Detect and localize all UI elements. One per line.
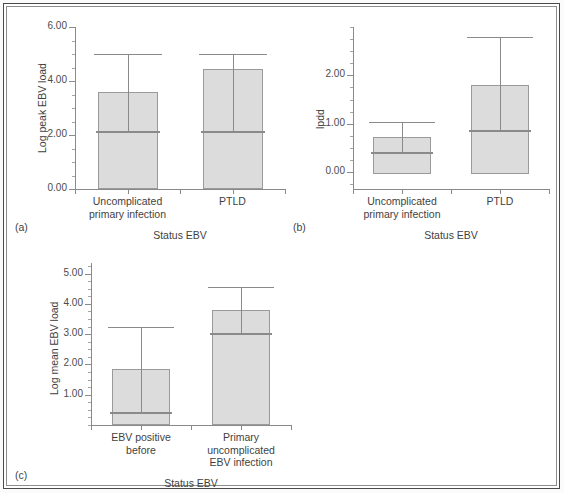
y-tick-major (85, 364, 91, 365)
x-tick-end (549, 189, 550, 194)
category-label-line: PTLD (438, 195, 562, 208)
y-tick-major (69, 81, 75, 82)
error-bar-cap-upper (369, 122, 435, 123)
x-tick-start (75, 189, 76, 194)
category-label-line: EBV infection (179, 456, 303, 469)
y-tick-minor (350, 160, 353, 161)
y-tick-minor (88, 281, 91, 282)
figure-root: 0.002.004.006.00Log peak EBV loadUncompl… (0, 0, 564, 493)
y-tick-minor (72, 149, 75, 150)
x-tick-divider (451, 189, 452, 194)
error-bar-cap-lower (201, 131, 265, 133)
error-bar-cap-lower (210, 333, 272, 335)
y-tick-label: 0.00 (307, 166, 345, 176)
category-label-line: primary infection (340, 208, 464, 221)
x-tick-start (91, 425, 92, 430)
error-bar-line (402, 122, 403, 152)
panel-tag: (c) (15, 469, 27, 481)
x-axis-label: Status EBV (75, 229, 285, 241)
x-tick-start (353, 189, 354, 194)
error-bar-cap-upper (94, 54, 162, 55)
y-tick-major (69, 135, 75, 136)
error-bar-cap-upper (208, 287, 274, 288)
panel-b: 0.001.002.00lpddUncomplicatedprimary inf… (291, 13, 553, 249)
panel-a: 0.002.004.006.00Log peak EBV loadUncompl… (15, 13, 291, 249)
error-bar-line (141, 327, 142, 412)
y-axis-label: lpdd (315, 109, 326, 129)
panel-tag: (b) (293, 221, 306, 233)
y-tick-major (347, 124, 353, 125)
x-tick (128, 189, 129, 194)
x-tick (241, 425, 242, 430)
y-tick-minor (88, 372, 91, 373)
category-label: PTLD (438, 195, 562, 208)
y-tick-major (347, 75, 353, 76)
y-tick-minor (88, 349, 91, 350)
y-tick-minor (350, 63, 353, 64)
y-tick-minor (88, 402, 91, 403)
y-tick-minor (72, 68, 75, 69)
error-bar-line (128, 54, 129, 131)
y-tick-minor (88, 311, 91, 312)
error-bar-cap-upper (108, 327, 174, 328)
y-axis-line (353, 27, 354, 189)
y-tick-minor (88, 342, 91, 343)
y-tick-minor (88, 417, 91, 418)
y-tick-major (85, 334, 91, 335)
y-tick-minor (350, 51, 353, 52)
category-label: PTLD (171, 195, 295, 208)
y-tick-label: 2.00 (29, 129, 67, 139)
y-tick-minor (350, 100, 353, 101)
y-tick-minor (350, 136, 353, 137)
category-label-line: uncomplicated (179, 444, 303, 457)
y-tick-label: 4.00 (29, 75, 67, 85)
y-tick-minor (88, 289, 91, 290)
error-bar-cap-upper (467, 37, 533, 38)
y-tick-minor (88, 266, 91, 267)
error-bar-cap-lower (96, 131, 160, 133)
y-tick-minor (350, 39, 353, 40)
y-tick-minor (88, 387, 91, 388)
y-tick-minor (72, 162, 75, 163)
x-tick (141, 425, 142, 430)
y-tick-minor (72, 54, 75, 55)
y-tick-major (85, 395, 91, 396)
y-tick-major (69, 27, 75, 28)
x-tick (402, 189, 403, 194)
y-tick-label: 6.00 (29, 21, 67, 31)
y-axis-line (91, 263, 92, 425)
y-tick-minor (350, 112, 353, 113)
x-tick (500, 189, 501, 194)
category-label-line: Primary (179, 431, 303, 444)
y-axis-label: Log peak EBV load (37, 63, 48, 153)
y-tick-major (85, 274, 91, 275)
y-tick-minor (350, 87, 353, 88)
y-tick-minor (72, 95, 75, 96)
y-tick-minor (88, 357, 91, 358)
y-tick-minor (88, 410, 91, 411)
x-tick-end (291, 425, 292, 430)
figure-border-inner: 0.002.004.006.00Log peak EBV loadUncompl… (6, 6, 557, 486)
y-tick-minor (72, 176, 75, 177)
y-tick-minor (72, 108, 75, 109)
y-tick-minor (88, 296, 91, 297)
x-tick-end (285, 189, 286, 194)
y-tick-label: 5.00 (45, 268, 83, 278)
y-tick-major (85, 304, 91, 305)
y-tick-label: 0.00 (29, 183, 67, 193)
panel-c: 1.002.003.004.005.00Log mean EBV loadEBV… (27, 249, 303, 485)
x-tick-divider (191, 425, 192, 430)
y-tick-minor (72, 122, 75, 123)
y-tick-minor (72, 41, 75, 42)
error-bar-line (500, 37, 501, 130)
category-label: PrimaryuncomplicatedEBV infection (179, 431, 303, 469)
category-label-line: primary infection (66, 208, 190, 221)
x-axis-label: Status EBV (91, 477, 291, 489)
panel-tag: (a) (15, 221, 28, 233)
y-tick-minor (88, 380, 91, 381)
x-axis-label: Status EBV (353, 229, 549, 241)
error-bar-cap-lower (469, 130, 531, 132)
error-bar-cap-lower (371, 152, 433, 154)
y-tick-minor (88, 327, 91, 328)
y-tick-minor (350, 27, 353, 28)
